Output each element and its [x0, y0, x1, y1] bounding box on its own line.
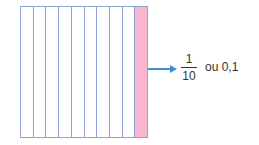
tenths-grid	[20, 6, 148, 138]
fraction: 1 10	[181, 52, 197, 83]
fraction-numerator: 1	[181, 52, 197, 66]
fraction-bar	[181, 67, 197, 68]
grid-column	[46, 7, 59, 137]
grid-column	[72, 7, 85, 137]
grid-column	[110, 7, 123, 137]
grid-column	[123, 7, 136, 137]
grid-column	[21, 7, 34, 137]
grid-column	[34, 7, 47, 137]
arrowhead-icon	[170, 65, 177, 73]
grid-column	[97, 7, 110, 137]
fraction-denominator: 10	[181, 69, 197, 83]
shaded-column	[135, 7, 147, 137]
decimal-label: ou 0,1	[205, 60, 238, 74]
arrow-icon	[148, 68, 172, 70]
grid-column	[85, 7, 98, 137]
grid-column	[59, 7, 72, 137]
